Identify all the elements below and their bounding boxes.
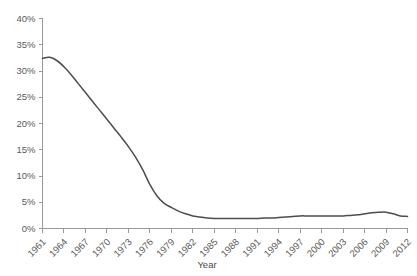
x-tick-label: 1985 [197, 236, 220, 259]
x-tick-label: 1964 [47, 236, 70, 259]
line-chart: 0%5%10%15%20%25%30%35%40% 19611964196719… [0, 0, 417, 276]
y-axis-group: 0%5%10%15%20%25%30%35%40% [16, 13, 42, 234]
y-tick-marks [39, 19, 43, 229]
x-tick-label: 1979 [154, 236, 177, 259]
x-tick-label: 1970 [90, 236, 113, 259]
x-tick-label: 1991 [240, 236, 263, 259]
x-tick-label: 1982 [175, 236, 198, 259]
series-line-1 [43, 57, 408, 218]
x-tick-label: 1976 [133, 236, 156, 259]
x-tick-marks [43, 229, 408, 233]
x-tick-labels: 1961196419671970197319761979198219851988… [25, 236, 413, 259]
y-tick-label: 30% [16, 65, 36, 76]
x-tick-label: 2012 [390, 236, 413, 259]
x-tick-label: 2000 [304, 236, 327, 259]
y-tick-label: 15% [16, 144, 36, 155]
x-tick-label: 1973 [111, 236, 134, 259]
x-tick-label: 1997 [283, 236, 306, 259]
y-tick-label: 35% [16, 39, 36, 50]
x-tick-label: 1967 [68, 236, 91, 259]
x-tick-label: 1988 [218, 236, 241, 259]
y-tick-label: 25% [16, 91, 36, 102]
x-tick-label: 1961 [25, 236, 48, 259]
y-tick-label: 10% [16, 170, 36, 181]
x-tick-label: 1994 [261, 236, 284, 259]
y-tick-labels: 0%5%10%15%20%25%30%35%40% [16, 13, 36, 234]
x-tick-label: 2009 [369, 236, 392, 259]
chart-canvas: 0%5%10%15%20%25%30%35%40% 19611964196719… [0, 0, 417, 276]
y-tick-label: 20% [16, 118, 36, 129]
x-axis-group: 1961196419671970197319761979198219851988… [25, 229, 413, 259]
x-tick-label: 2006 [347, 236, 370, 259]
x-tick-label: 2003 [326, 236, 349, 259]
y-tick-label: 40% [16, 13, 36, 24]
x-axis-title: Year [197, 259, 216, 270]
y-tick-label: 0% [22, 223, 36, 234]
data-series-group [43, 57, 408, 218]
y-tick-label: 5% [22, 196, 36, 207]
